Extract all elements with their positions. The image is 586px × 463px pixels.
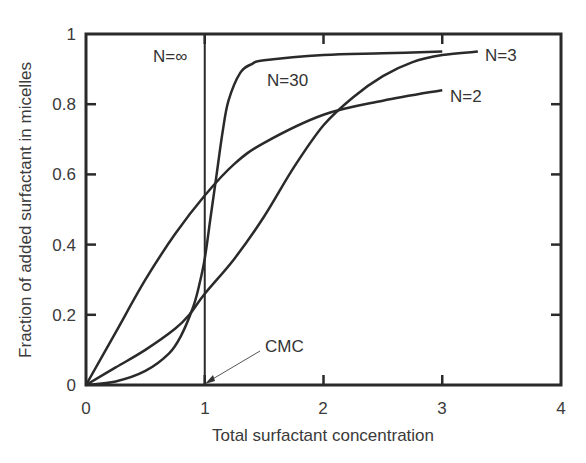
y-tick-0.6: 0.6 (52, 165, 76, 184)
x-tick-2: 2 (318, 399, 327, 418)
curve-n-3 (86, 52, 478, 385)
y-tick-0: 0 (67, 376, 76, 395)
x-tick-0: 0 (81, 399, 90, 418)
x-axis-title: Total surfactant concentration (212, 426, 434, 445)
axis-ticks (86, 34, 561, 385)
y-tick-1: 1 (67, 25, 76, 44)
y-tick-0.4: 0.4 (52, 236, 76, 255)
x-tick-1: 1 (200, 399, 209, 418)
y-tick-0.8: 0.8 (52, 95, 76, 114)
x-tick-4: 4 (556, 399, 565, 418)
label-n-30: N=30 (267, 71, 308, 90)
label-n-infinity: N=∞ (153, 47, 187, 66)
label-n-3: N=3 (485, 46, 517, 65)
label-n-2: N=2 (450, 87, 482, 106)
x-tick-3: 3 (437, 399, 446, 418)
label-cmc: CMC (265, 337, 304, 356)
y-tick-0.2: 0.2 (52, 306, 76, 325)
cmc-arrow (205, 351, 260, 384)
plot-frame (86, 34, 561, 385)
curve-ninfinity (86, 34, 205, 385)
y-axis-title: Fraction of added surfactant in micelles (16, 62, 35, 358)
micelle-fraction-chart: 0 1 2 3 4 0 0.2 0.4 0.6 0.8 1 Total surf… (0, 0, 586, 463)
